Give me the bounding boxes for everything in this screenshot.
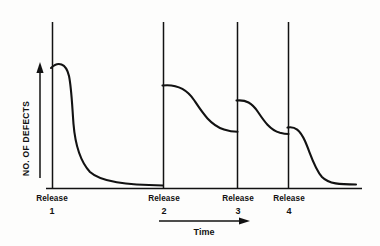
curve-release-4: [288, 127, 357, 184]
curve-release-3: [237, 100, 289, 134]
curve-release-2: [163, 85, 238, 132]
right-arrow-icon: [159, 217, 250, 224]
release-label-4-number: 4: [286, 206, 291, 216]
up-arrow-icon: [36, 62, 43, 178]
release-label-1: Release 1: [36, 194, 68, 216]
x-axis-label: Time: [194, 227, 215, 237]
curve-release-1: [51, 64, 163, 185]
y-axis-label: NO. OF DEFECTS: [21, 101, 31, 176]
release-label-3-number: 3: [235, 206, 240, 216]
release-label-2: Release 2: [148, 194, 180, 216]
release-label-4-text: Release: [273, 194, 305, 203]
chart-canvas: NO. OF DEFECTS Release 1 Rele: [0, 0, 380, 246]
release-label-3-text: Release: [222, 194, 254, 203]
release-label-4: Release 4: [273, 194, 305, 216]
y-axis-group: NO. OF DEFECTS: [21, 62, 44, 178]
release-label-3: Release 3: [222, 194, 254, 216]
release-label-2-text: Release: [148, 194, 180, 203]
defects-vs-time-figure: NO. OF DEFECTS Release 1 Rele: [0, 0, 380, 246]
time-axis-group: Time: [159, 217, 250, 237]
release-label-1-text: Release: [36, 194, 68, 203]
release-label-2-number: 2: [161, 206, 166, 216]
release-label-1-number: 1: [49, 206, 54, 216]
